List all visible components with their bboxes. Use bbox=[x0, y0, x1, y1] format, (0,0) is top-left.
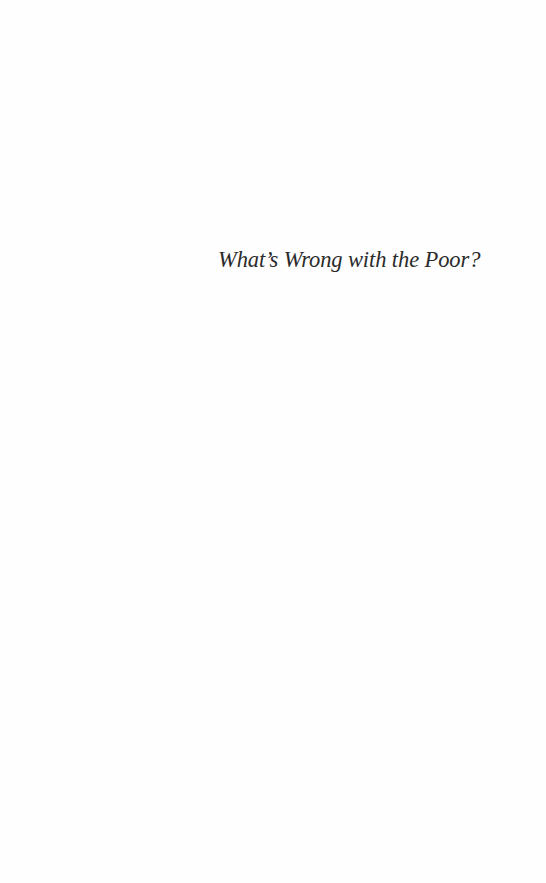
half-title: What’s Wrong with the Poor? bbox=[218, 246, 448, 274]
book-page: What’s Wrong with the Poor? bbox=[0, 0, 546, 883]
